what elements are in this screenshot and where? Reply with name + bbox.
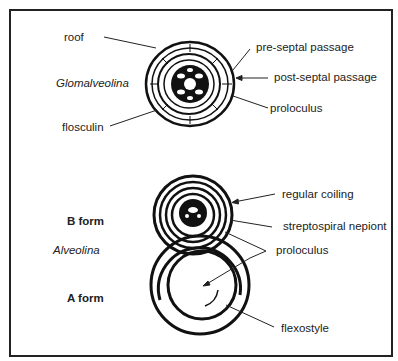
- label-glomalveolina: Glomalveolina: [56, 78, 129, 90]
- label-proloculus-bottom: proloculus: [276, 245, 328, 257]
- label-streptospiral-nepiont: streptospiral nepiont: [283, 221, 387, 233]
- label-proloculus-top: proloculus: [270, 103, 322, 115]
- b-form-drawing: [154, 176, 232, 254]
- label-alveolina: Alveolina: [53, 245, 100, 257]
- label-b-form: B form: [67, 216, 104, 228]
- a-form-drawing: [151, 236, 249, 334]
- label-a-form: A form: [67, 293, 104, 305]
- label-flosculin: flosculin: [62, 122, 104, 134]
- foraminifera-drawings: [0, 0, 398, 361]
- label-flexostyle: flexostyle: [281, 323, 329, 335]
- label-roof: roof: [64, 32, 84, 44]
- glomalveolina-drawing: [146, 42, 234, 126]
- label-pre-septal-passage: pre-septal passage: [256, 42, 354, 54]
- label-regular-coiling: regular coiling: [282, 189, 354, 201]
- label-post-septal-passage: post-septal passage: [274, 72, 377, 84]
